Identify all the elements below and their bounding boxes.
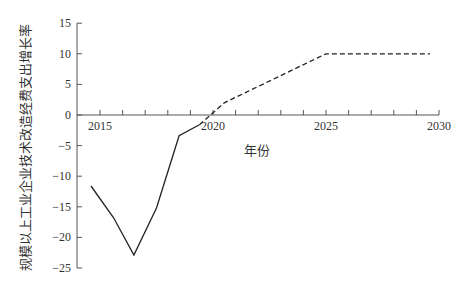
- y-tick-label: −15: [52, 200, 71, 214]
- y-tick-label: −10: [52, 169, 71, 183]
- series-line-actual: [91, 125, 199, 255]
- line-chart: 151050−5−10−15−20−25 2015202020252030 年份…: [0, 0, 457, 291]
- x-tick-label: 2015: [88, 119, 112, 133]
- y-tick-label: −5: [58, 139, 71, 153]
- x-tick-label: 2030: [427, 119, 451, 133]
- y-tick-label: 10: [59, 47, 71, 61]
- x-tick-label: 2020: [201, 119, 225, 133]
- x-tick-label: 2025: [314, 119, 338, 133]
- y-tick-label: 0: [65, 108, 71, 122]
- y-axis-title: 规模以上工业企业技术改造经费支出增长率: [18, 24, 33, 271]
- x-axis: 2015202020252030: [77, 110, 451, 133]
- y-tick-label: 5: [65, 77, 71, 91]
- series-line-projected: [199, 54, 430, 125]
- chart-canvas: 151050−5−10−15−20−25 2015202020252030 年份…: [0, 0, 457, 291]
- y-tick-label: −25: [52, 261, 71, 275]
- x-axis-title: 年份: [244, 143, 270, 158]
- y-tick-label: −20: [52, 230, 71, 244]
- y-axis: 151050−5−10−15−20−25: [52, 16, 82, 275]
- y-tick-label: 15: [59, 16, 71, 30]
